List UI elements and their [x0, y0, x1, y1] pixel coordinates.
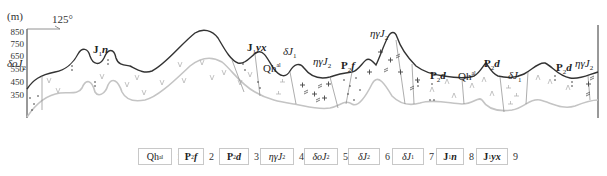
section-label: δJ1 [508, 70, 522, 84]
y-tick-750: 750 [4, 39, 24, 49]
legend-swatch: δJ1 [392, 148, 424, 165]
section-label: δJ1 [283, 46, 297, 60]
legend-number: 3 [254, 151, 259, 162]
section-label: ηγJ2 [313, 56, 331, 70]
legend-swatch: δJ2 [348, 148, 380, 165]
section-label: P2d [484, 58, 500, 72]
y-tick-850: 850 [4, 27, 24, 37]
legend-swatch: J1yx [476, 148, 508, 165]
azimuth-label: 125° [52, 13, 73, 25]
legend-swatch: J1n [436, 148, 464, 165]
legend-swatch: δοJ2 [304, 148, 338, 165]
legend-swatch: P2f [178, 148, 204, 165]
orientation-arrow-icon [55, 26, 60, 29]
legend-number: 2 [209, 151, 214, 162]
y-tick-350: 350 [4, 90, 24, 100]
section-label: δοJ2 [7, 58, 26, 72]
legend-number: 8 [469, 151, 474, 162]
section-label: P2d [430, 70, 446, 84]
legend-number: 6 [385, 151, 390, 162]
section-label: P2d [556, 62, 572, 76]
legend-swatch: P2d [219, 148, 249, 165]
legend-swatch: Qhal [138, 148, 172, 165]
section-label: J1yx [247, 42, 266, 56]
section-label: ηγJ2 [575, 58, 593, 72]
legend-number: 7 [429, 151, 434, 162]
y-axis-unit: (m) [7, 10, 23, 22]
section-label: Qhal [263, 62, 281, 74]
legend-number: 9 [513, 151, 518, 162]
section-label: P2f [341, 60, 355, 74]
legend-swatch: ηγJ2 [260, 148, 294, 165]
section-label: ηγJ2 [370, 28, 388, 42]
section-label: J1n [93, 44, 108, 58]
volcanic-pattern [47, 60, 252, 95]
section-label: Qhal [458, 70, 476, 82]
y-tick-450: 450 [4, 77, 24, 87]
legend: Qhal1P2f2P2d3ηγJ24δοJ25δJ26δJ17J1n8J1yx9 [0, 148, 607, 168]
